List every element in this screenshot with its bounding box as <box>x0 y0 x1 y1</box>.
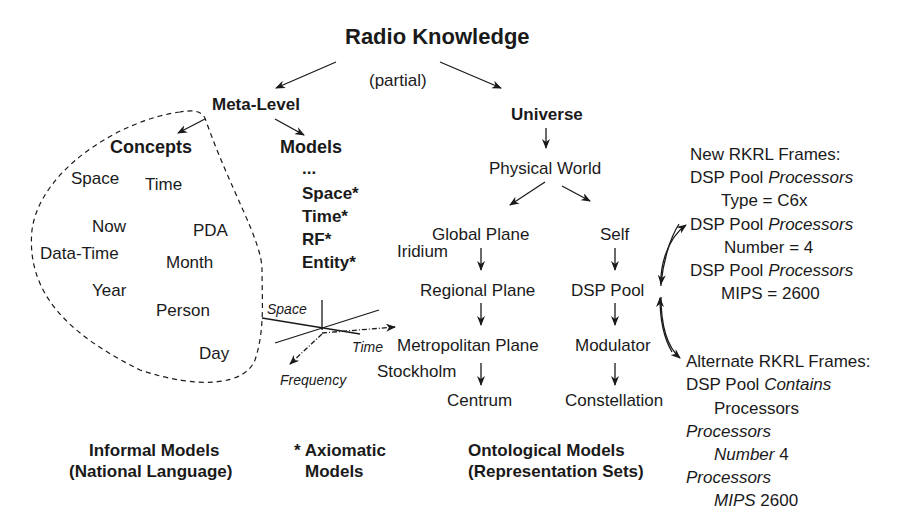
alt-frame-line4: Number 4 <box>714 446 789 463</box>
alt-frame-line5: Processors <box>686 469 771 486</box>
ontological-models-label: Ontological Models <box>468 442 625 459</box>
model-rf: RF* <box>302 231 331 248</box>
metropolitan-plane: Metropolitan Plane <box>397 337 539 354</box>
axiomatic-models-sub: Models <box>305 463 364 480</box>
diagram-connectors <box>0 0 919 516</box>
concept-time: Time <box>145 176 182 193</box>
new-frame-1-value: Type = C6x <box>721 192 807 209</box>
concept-data-time: Data-Time <box>40 245 119 262</box>
concept-now: Now <box>92 218 126 235</box>
concept-year: Year <box>92 282 126 299</box>
axis-space-label: Space <box>267 302 307 316</box>
arrow-meta-to-models <box>275 119 304 135</box>
concept-person: Person <box>156 302 210 319</box>
self: Self <box>600 226 629 243</box>
concept-month: Month <box>166 254 213 271</box>
arrow-title-to-meta <box>276 62 336 88</box>
model-space: Space* <box>302 185 359 202</box>
global-plane: Global Plane <box>432 226 529 243</box>
alt-frames-header: Alternate RKRL Frames: <box>686 353 871 370</box>
new-frames-header: New RKRL Frames: <box>690 146 841 163</box>
concept-pda: PDA <box>193 222 228 239</box>
axis-time-label: Time <box>352 340 383 354</box>
constellation: Constellation <box>565 392 663 409</box>
regional-plane: Regional Plane <box>420 282 535 299</box>
arrow-meta-to-concepts <box>178 119 205 133</box>
iridium: Iridium <box>397 243 448 260</box>
new-frame-3: DSP Pool Processors <box>690 262 853 279</box>
universe-label: Universe <box>511 106 583 123</box>
model-time: Time* <box>302 208 348 225</box>
informal-models-sub: (National Language) <box>69 463 232 480</box>
centrum: Centrum <box>447 392 512 409</box>
arrow-title-to-universe <box>440 62 501 88</box>
new-frame-2: DSP Pool Processors <box>690 216 853 233</box>
alt-frame-line2: Processors <box>714 400 799 417</box>
new-frame-3-value: MIPS = 2600 <box>721 285 820 302</box>
model-entity: Entity* <box>302 254 356 271</box>
concept-day: Day <box>199 345 229 362</box>
stockholm: Stockholm <box>377 363 456 380</box>
diagram-title: Radio Knowledge <box>345 26 530 48</box>
subtitle: (partial) <box>369 72 427 89</box>
concepts-label: Concepts <box>110 138 192 156</box>
alt-frame-line6: MIPS 2600 <box>714 492 798 509</box>
models-label: Models <box>280 138 342 156</box>
dsp-pool: DSP Pool <box>571 282 644 299</box>
meta-level-label: Meta-Level <box>212 96 300 113</box>
axis-frequency-label: Frequency <box>280 373 346 387</box>
alt-frame-line3: Processors <box>686 423 771 440</box>
new-frame-1: DSP Pool Processors <box>690 169 853 186</box>
modulator: Modulator <box>575 337 651 354</box>
informal-models-label: Informal Models <box>89 442 219 459</box>
physical-world: Physical World <box>489 160 601 177</box>
model-ellipsis: ... <box>302 160 316 177</box>
alt-frame-line1: DSP Pool Contains <box>686 376 831 393</box>
axiomatic-models-label: * Axiomatic <box>294 442 386 459</box>
concept-space: Space <box>71 170 119 187</box>
ontological-models-sub: (Representation Sets) <box>468 463 644 480</box>
new-frame-2-value: Number = 4 <box>724 239 813 256</box>
